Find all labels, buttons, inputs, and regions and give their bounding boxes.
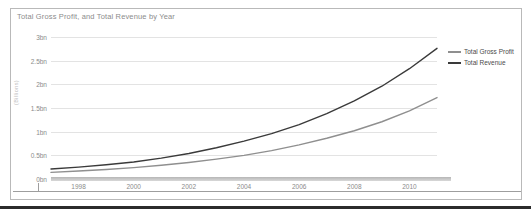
legend-label: Total Gross Profit — [464, 48, 514, 55]
x-axis-tick-label: 1998 — [71, 183, 85, 190]
y-axis-tick-label: 2.5bn — [31, 57, 47, 64]
series-lines — [51, 37, 437, 179]
x-axis-tick-label: 2008 — [347, 183, 361, 190]
x-axis-tick-label: 2000 — [126, 183, 140, 190]
y-axis-tick-labels: 0bn0.5bn1bn1.5bn2bn2.5bn3bn — [19, 37, 47, 179]
x-axis-tick-label: 2004 — [237, 183, 251, 190]
legend-line-icon — [448, 51, 461, 53]
y-axis-tick-label: 0bn — [36, 176, 47, 183]
series-line — [51, 98, 437, 173]
bottom-divider — [0, 206, 531, 209]
x-axis-tick-label: 2002 — [182, 183, 196, 190]
x-axis-tick-label: 2006 — [292, 183, 306, 190]
legend-item[interactable]: Total Gross Profit — [448, 47, 522, 56]
chart-title: Total Gross Profit, and Total Revenue by… — [17, 12, 175, 21]
series-line — [51, 48, 437, 169]
y-axis-tick-label: 0.5bn — [31, 152, 47, 159]
y-axis-tick-label: 1bn — [36, 128, 47, 135]
chart-legend: Total Gross ProfitTotal Revenue — [448, 47, 522, 69]
legend-item[interactable]: Total Revenue — [448, 58, 522, 67]
x-axis-band — [51, 177, 451, 181]
y-axis-tick-label: 1.5bn — [31, 105, 47, 112]
y-axis-tick-label: 2bn — [36, 81, 47, 88]
x-axis-tick-labels: 1998200020022004200620082010 — [11, 183, 523, 197]
plot-area — [51, 37, 437, 179]
x-axis-tick-label: 2010 — [402, 183, 416, 190]
legend-line-icon — [448, 62, 461, 64]
legend-label: Total Revenue — [464, 59, 506, 66]
chart-container: Total Gross Profit, and Total Revenue by… — [10, 8, 522, 200]
y-axis-tick-label: 3bn — [36, 34, 47, 41]
